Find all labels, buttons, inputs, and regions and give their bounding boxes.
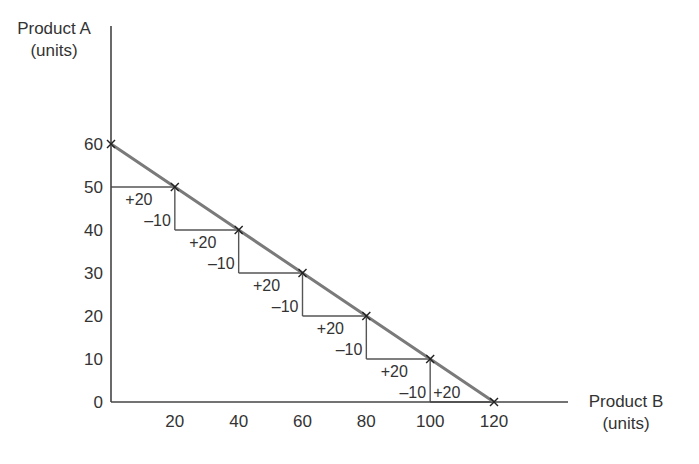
loss-label: –10 <box>208 255 235 272</box>
x-axis-label-line-2: (units) <box>578 413 674 435</box>
x-tick-label: 20 <box>165 412 184 431</box>
x-axis-label-line-1: Product B <box>578 391 674 413</box>
gain-label: +20 <box>433 384 460 401</box>
loss-label: –10 <box>272 298 299 315</box>
x-tick-label: 60 <box>293 412 312 431</box>
y-tick-label: 20 <box>84 307 103 326</box>
y-tick-label: 30 <box>84 264 103 283</box>
gain-label: +20 <box>253 277 280 294</box>
y-tick-label: 60 <box>84 135 103 154</box>
x-axis-label: Product B (units) <box>578 391 674 435</box>
loss-label: –10 <box>144 212 171 229</box>
y-axis-label: Product A (units) <box>6 18 102 62</box>
gain-label: +20 <box>381 363 408 380</box>
y-axis-label-line-1: Product A <box>6 18 102 40</box>
gain-label: +20 <box>189 234 216 251</box>
loss-label: –10 <box>399 384 426 401</box>
frontier-line <box>107 140 498 406</box>
step-labels: +20–10+20–10+20–10+20–10+20–10+20 <box>125 191 460 401</box>
x-tick-label: 40 <box>229 412 248 431</box>
x-tick-label: 100 <box>416 412 444 431</box>
x-tick-label: 80 <box>357 412 376 431</box>
gain-label: +20 <box>125 191 152 208</box>
x-tick-label: 120 <box>480 412 508 431</box>
y-tick-label: 0 <box>94 393 103 412</box>
y-axis-label-line-2: (units) <box>6 40 102 62</box>
y-tick-label: 10 <box>84 350 103 369</box>
y-tick-label: 50 <box>84 178 103 197</box>
y-tick-label: 40 <box>84 221 103 240</box>
gain-label: +20 <box>317 320 344 337</box>
loss-label: –10 <box>336 341 363 358</box>
